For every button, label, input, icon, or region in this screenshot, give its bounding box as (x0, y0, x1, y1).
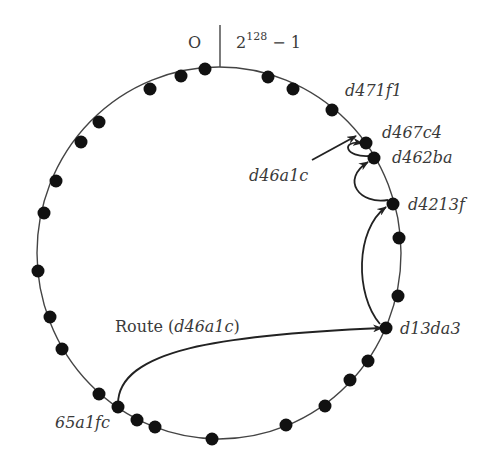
ring-node-n27 (287, 83, 300, 96)
ring-node-n21 (392, 290, 405, 303)
max-id-exponent: 128 (246, 30, 267, 43)
route-label-suffix: ) (234, 317, 240, 336)
route-label-key: d46a1c (174, 317, 233, 336)
route-label: Route (d46a1c) (115, 317, 240, 336)
label-d13da3: d13da3 (400, 319, 461, 338)
ring-node-n3 (144, 83, 157, 96)
route-arrow-d4213f-to-d462ba (355, 162, 388, 201)
label-d46a1c-key: d46a1c (249, 166, 308, 185)
ring-node-n19 (362, 355, 375, 368)
max-id-label: 2128 − 1 (236, 30, 301, 52)
ring-node-n14 (149, 421, 162, 434)
ring-node-n2 (175, 70, 188, 83)
ring-node-65a1fc (112, 401, 125, 414)
origin-label: O (188, 33, 201, 52)
ring-node-n1 (199, 63, 212, 76)
ring-node-n15 (206, 433, 219, 446)
ring-node-n9 (44, 311, 57, 324)
key-pointer-arrow-d46a1c (312, 136, 356, 160)
ring-node-n22 (393, 232, 406, 245)
ring-node-d471f1 (326, 104, 339, 117)
label-d467c4: d467c4 (382, 123, 442, 142)
ring-node-n16 (280, 419, 293, 432)
label-65a1fc: 65a1fc (55, 413, 110, 432)
ring-node-n4 (93, 116, 106, 129)
dht-ring-diagram: O 2128 − 1 d471f1 d467c4 d462ba d46a1c d… (0, 0, 491, 463)
ring-node-n17 (319, 400, 332, 413)
route-label-prefix: Route ( (115, 317, 174, 336)
route-arrow-65a1fc-to-d13da3 (118, 328, 382, 404)
ring-node-n6 (50, 175, 63, 188)
max-id-suffix: − 1 (267, 33, 301, 52)
ring-node-n7 (38, 207, 51, 220)
ring-node-n5 (75, 136, 88, 149)
ring-node-d4213f (387, 198, 400, 211)
ring-node-d462ba (368, 152, 381, 165)
ring-node-d467c4 (360, 137, 373, 150)
ring-node-n10 (56, 343, 69, 356)
ring-node-d13da3 (380, 322, 393, 335)
ring-nodes (32, 63, 406, 446)
max-id-base: 2 (236, 33, 246, 52)
ring-node-n28 (262, 71, 275, 84)
label-d4213f: d4213f (408, 195, 468, 214)
ring-node-n13 (131, 414, 144, 427)
ring-node-n11 (93, 388, 106, 401)
ring-node-n8 (32, 265, 45, 278)
label-d462ba: d462ba (392, 148, 453, 167)
route-arrow-d13da3-to-d4213f (362, 207, 386, 324)
ring-node-n18 (344, 374, 357, 387)
label-d471f1: d471f1 (345, 81, 402, 100)
